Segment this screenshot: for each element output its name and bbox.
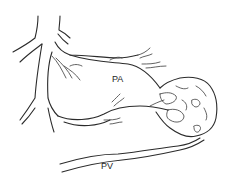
pulmonary-vein [60,138,204,172]
vessel-illustration [0,0,232,184]
diagram-canvas [0,0,232,184]
pulmonary-artery [58,55,168,126]
pv-label: PV [101,162,113,171]
avm-nidus [150,77,217,136]
vessel-tree [13,16,166,132]
pa-label: PA [112,75,123,84]
